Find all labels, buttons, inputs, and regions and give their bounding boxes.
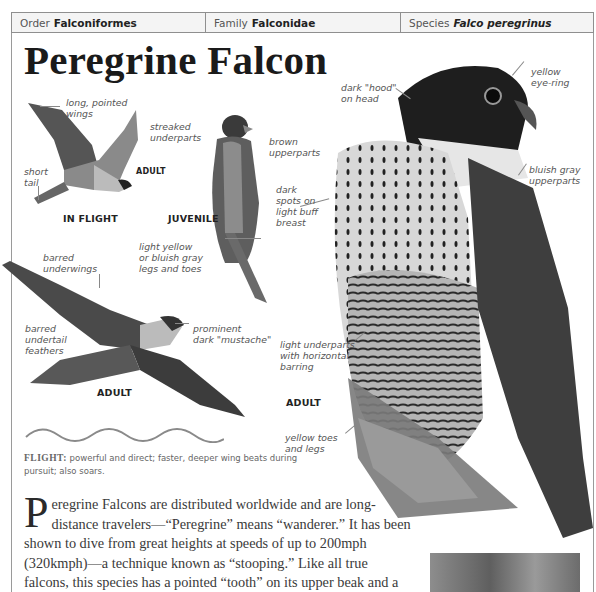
taxonomy-order: Order Falconiformes <box>12 13 206 32</box>
leader-line <box>175 323 189 324</box>
family-value: Falconidae <box>252 17 315 29</box>
flight-label: FLIGHT: <box>24 453 67 463</box>
inset-photo <box>430 553 580 592</box>
species-label: Species <box>409 17 449 29</box>
caption-in-flight: IN FLIGHT <box>63 213 118 224</box>
label-bluish-gray-upperparts: bluish gray upperparts <box>529 164 581 186</box>
drop-cap: P <box>24 496 48 530</box>
flight-description: FLIGHT: powerful and direct; faster, dee… <box>24 452 314 478</box>
label-dark-hood: dark "hood" on head <box>341 82 396 104</box>
adult-perched-falcon-photo <box>318 58 596 558</box>
body-paragraph: Peregrine Falcons are distributed worldw… <box>24 495 414 592</box>
taxonomy-family: Family Falconidae <box>206 13 401 32</box>
label-dark-spots-breast: dark spots on light buff breast <box>276 184 318 228</box>
label-light-underparts: light underparts with horizontal barring <box>280 339 355 372</box>
order-label: Order <box>20 17 50 29</box>
label-barred-undertail: barred undertail feathers <box>25 323 67 356</box>
label-juvenile-legs: light yellow or bluish gray legs and toe… <box>139 241 203 274</box>
label-yellow-eye-ring: yellow eye-ring <box>531 66 570 88</box>
label-short-tail: short tail <box>24 166 48 188</box>
leader-line <box>225 238 261 239</box>
leader-line <box>40 106 60 107</box>
species-value: Falco peregrinus <box>453 17 551 29</box>
flight-pattern-wave-icon <box>24 423 224 443</box>
caption-adult-perched: ADULT <box>286 397 321 408</box>
family-label: Family <box>214 17 248 29</box>
label-prominent-mustache: prominent dark "mustache" <box>193 323 271 345</box>
label-brown-upperparts: brown upperparts <box>269 136 320 158</box>
leader-line <box>99 274 100 288</box>
body-text: eregrine Falcons are distributed worldwi… <box>24 496 411 592</box>
taxonomy-species: Species Falco peregrinus <box>401 13 593 32</box>
leader-line <box>38 186 39 200</box>
label-long-pointed-wings: long, pointed wings <box>66 97 127 119</box>
label-yellow-toes-legs: yellow toes and legs <box>285 432 338 454</box>
taxonomy-bar: Order Falconiformes Family Falconidae Sp… <box>11 12 594 33</box>
caption-juvenile: JUVENILE <box>168 213 219 224</box>
caption-adult-flying: ADULT <box>97 387 132 398</box>
page-title: Peregrine Falcon <box>24 40 327 81</box>
caption-adult-inflight: ADULT <box>136 167 166 176</box>
label-barred-underwings: barred underwings <box>43 252 97 274</box>
order-value: Falconiformes <box>54 17 137 29</box>
label-streaked-underparts: streaked underparts <box>150 121 201 143</box>
